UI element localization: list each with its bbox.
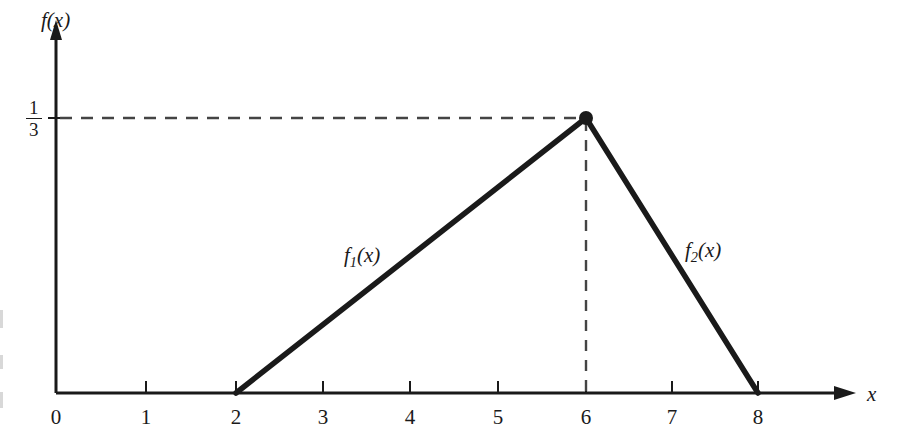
y-tick-label-one-third: 1 3 (26, 98, 42, 139)
y-axis-label: f(x) (41, 10, 70, 31)
peak-point-marker (579, 111, 593, 125)
fraction-numerator: 1 (26, 98, 42, 119)
x-tick-label-1: 1 (131, 407, 161, 428)
x-tick-label-3: 3 (308, 407, 338, 428)
x-tick-label-0: 0 (41, 407, 71, 428)
curve-segment-f1 (236, 118, 586, 393)
triangular-density-figure: f(x) x 1 3 0 1 2 3 4 5 6 7 8 f1(x) f2(x) (0, 0, 897, 441)
curve-label-f1-suffix: (x) (357, 243, 380, 267)
x-tick-label-8: 8 (743, 407, 773, 428)
x-axis-label: x (867, 384, 876, 405)
x-axis (56, 386, 856, 400)
curve-label-f1: f1(x) (344, 245, 380, 269)
curve-label-f2-index: 2 (691, 249, 698, 265)
curve-label-f2-suffix: (x) (698, 238, 721, 262)
x-tick-label-6: 6 (571, 407, 601, 428)
x-tick-label-4: 4 (395, 407, 425, 428)
x-axis-ticks (56, 381, 758, 393)
curve-segment-f2 (586, 118, 758, 393)
fraction-one-third: 1 3 (26, 98, 42, 139)
plot-canvas (0, 0, 897, 441)
x-tick-label-5: 5 (483, 407, 513, 428)
x-tick-label-7: 7 (657, 407, 687, 428)
x-tick-label-2: 2 (221, 407, 251, 428)
y-axis (50, 20, 62, 393)
curve-label-f1-index: 1 (350, 254, 357, 270)
curve-label-f2: f2(x) (685, 240, 721, 264)
fraction-denominator: 3 (26, 119, 42, 139)
